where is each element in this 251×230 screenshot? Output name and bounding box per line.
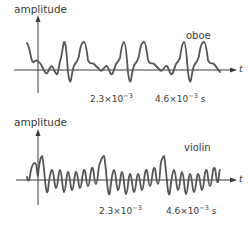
violin-instrument-label: violin (184, 143, 211, 153)
violin-plot (0, 0, 251, 230)
violin-panel: amplitude t violin 2.3×10−3 4.6×10−3 s (0, 0, 251, 230)
violin-tick-label-2: 4.6×10−3 s (166, 205, 216, 216)
violin-waveform (27, 156, 220, 194)
violin-x-axis-arrow-icon (230, 178, 237, 183)
violin-y-axis-label: amplitude (14, 117, 67, 128)
violin-tick-label-1: 2.3×10−3 (99, 205, 142, 216)
violin-x-axis-label: t (239, 174, 243, 184)
violin-y-axis-arrow-icon (36, 129, 41, 136)
